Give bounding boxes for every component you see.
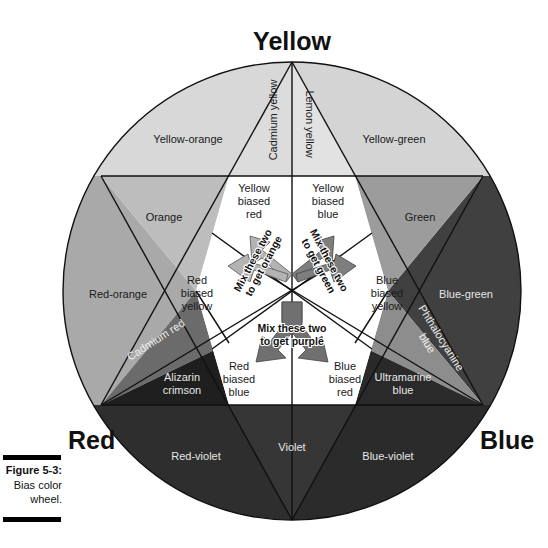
label-red-violet: Red-violet — [171, 450, 221, 462]
svg-text:biased: biased — [223, 373, 255, 385]
svg-text:blue: blue — [318, 208, 339, 220]
svg-text:biased: biased — [238, 195, 270, 207]
primary-label-blue: Blue — [480, 426, 534, 454]
svg-text:Blue: Blue — [376, 274, 398, 286]
primary-label-yellow: Yellow — [253, 27, 331, 55]
label-yellow-green: Yellow-green — [362, 133, 425, 145]
svg-text:Mix these two: Mix these two — [258, 322, 327, 334]
figure-caption-title: Figure 5-3: — [0, 464, 62, 476]
label-yellow-orange: Yellow-orange — [153, 133, 222, 145]
svg-text:biased: biased — [312, 195, 344, 207]
svg-text:yellow: yellow — [182, 300, 213, 312]
figure-caption-body: Bias color wheel. — [0, 478, 62, 506]
label-blue-green: Blue-green — [439, 288, 493, 300]
svg-text:Red: Red — [187, 274, 207, 286]
label-lemon-yellow: Lemon yellow — [304, 90, 316, 157]
svg-text:yellow: yellow — [372, 300, 403, 312]
label-violet: Violet — [278, 441, 305, 453]
caption-rule-bottom — [3, 517, 61, 522]
svg-text:Yellow: Yellow — [238, 182, 269, 194]
mix-note-purple: Mix these two to get purple — [258, 322, 327, 347]
svg-text:biased: biased — [329, 373, 361, 385]
svg-text:biased: biased — [181, 287, 213, 299]
label-alizarin-2: crimson — [163, 384, 202, 396]
svg-text:blue: blue — [229, 386, 250, 398]
primary-label-red: Red — [68, 426, 115, 454]
svg-text:Red: Red — [229, 360, 249, 372]
svg-text:red: red — [246, 208, 262, 220]
caption-line-1: Bias color — [0, 478, 62, 492]
label-cadmium-yellow: Cadmium yellow — [267, 80, 279, 161]
svg-text:biased: biased — [371, 287, 403, 299]
label-red-orange: Red-orange — [89, 288, 147, 300]
svg-text:red: red — [337, 386, 353, 398]
bias-color-wheel: Yellow Red Blue Yellow-orange Yellow-gre… — [0, 0, 548, 548]
label-alizarin-1: Alizarin — [164, 371, 200, 383]
svg-text:to get purple: to get purple — [260, 335, 324, 347]
label-ultramarine-1: Ultramarine — [375, 371, 432, 383]
label-ultramarine-2: blue — [393, 384, 414, 396]
label-green: Green — [405, 211, 436, 223]
label-blue-violet: Blue-violet — [362, 450, 413, 462]
svg-text:Blue: Blue — [334, 360, 356, 372]
caption-rule-top — [3, 455, 61, 460]
svg-text:Yellow: Yellow — [312, 182, 343, 194]
caption-line-2: wheel. — [0, 492, 62, 506]
label-orange: Orange — [146, 211, 183, 223]
